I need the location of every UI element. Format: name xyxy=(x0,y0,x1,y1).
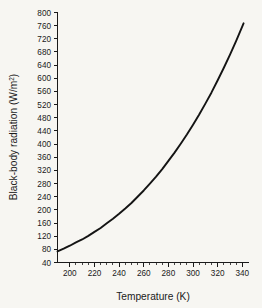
x-tick-label: 220 xyxy=(88,269,102,278)
y-tick-label: 280 xyxy=(37,180,51,189)
y-tick-label: 520 xyxy=(37,101,51,110)
y-tick-label: 80 xyxy=(42,245,52,254)
y-tick-label: 640 xyxy=(37,61,51,70)
y-axis-title: Black-body radiation (W/m2) xyxy=(8,74,19,200)
y-tick-label: 160 xyxy=(37,219,51,228)
x-tick-label: 260 xyxy=(137,269,151,278)
y-axis-title-close-paren: ) xyxy=(8,74,19,77)
x-tick-label: 320 xyxy=(211,269,225,278)
y-tick-label: 560 xyxy=(37,87,51,96)
y-tick-label: 360 xyxy=(37,153,51,162)
y-tick-label: 120 xyxy=(37,232,51,241)
x-tick-label: 200 xyxy=(63,269,77,278)
y-tick-label: 760 xyxy=(37,22,51,31)
x-axis-title: Temperature (K) xyxy=(116,291,190,302)
y-tick-label: 200 xyxy=(37,206,51,215)
x-tick-label: 300 xyxy=(186,269,200,278)
y-tick-label: 440 xyxy=(37,127,51,136)
y-tick-label: 680 xyxy=(37,48,51,57)
y-tick-label: 320 xyxy=(37,166,51,175)
x-tick-label: 280 xyxy=(162,269,176,278)
y-tick-label: 600 xyxy=(37,74,51,83)
y-axis-title-base: Black-body radiation (W/m xyxy=(8,81,19,200)
chart-canvas: 4080120160200240280320360400440480520560… xyxy=(0,0,262,308)
y-tick-label: 40 xyxy=(42,259,52,268)
y-tick-label: 240 xyxy=(37,193,51,202)
y-axis-title-group: Black-body radiation (W/m2) xyxy=(8,74,19,200)
x-tick-label: 240 xyxy=(112,269,126,278)
black-body-radiation-chart: 4080120160200240280320360400440480520560… xyxy=(0,0,262,308)
x-tick-label: 340 xyxy=(236,269,250,278)
y-tick-label: 800 xyxy=(37,9,51,18)
y-tick-label: 480 xyxy=(37,114,51,123)
y-tick-label: 720 xyxy=(37,35,51,44)
y-tick-label: 400 xyxy=(37,140,51,149)
